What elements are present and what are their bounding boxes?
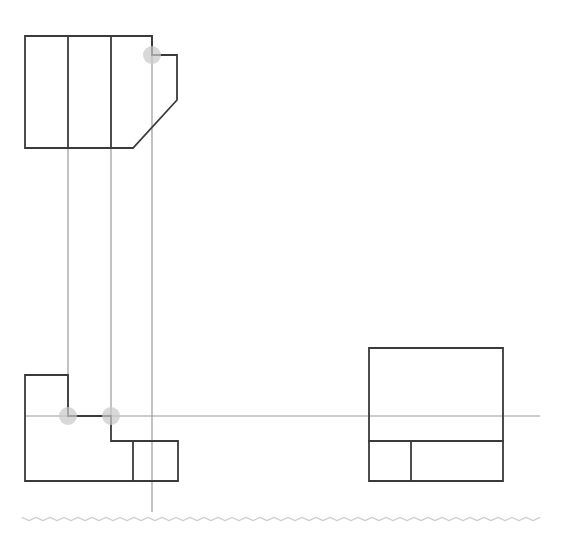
ground-wavy-line	[22, 517, 540, 520]
front-view-outline[interactable]	[25, 375, 178, 481]
drawing-canvas	[0, 0, 563, 536]
ground-line-group	[22, 517, 540, 520]
vertex-markers-group[interactable]	[59, 46, 161, 425]
front-view-group[interactable]	[25, 375, 178, 481]
side-view-outline[interactable]	[369, 348, 503, 481]
vertex-marker-top-notch[interactable]	[143, 46, 161, 64]
drawing-svg	[0, 0, 563, 536]
vertex-marker-front-step-left[interactable]	[59, 407, 77, 425]
vertex-marker-front-step-right[interactable]	[102, 407, 120, 425]
side-view-group[interactable]	[369, 348, 503, 481]
